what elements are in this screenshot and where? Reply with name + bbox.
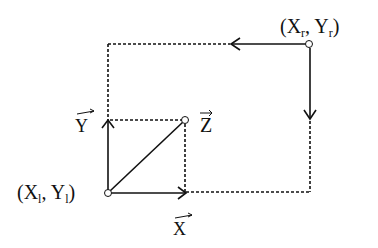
point-left-icon — [105, 190, 112, 197]
z-vector-line — [110, 122, 183, 191]
x-vector-label: X — [173, 219, 186, 239]
y-vector-arrow-over-icon — [77, 109, 94, 114]
right-point-label: (Xr, Yr) — [280, 15, 339, 40]
point-z-icon — [182, 117, 189, 124]
point-right-icon — [306, 41, 313, 48]
x-vector-arrow-over-icon — [175, 213, 192, 218]
y-vector-label: Y — [75, 116, 88, 136]
z-vector-label: Z — [200, 114, 212, 136]
vector-diagram: (Xr, Yr) (Xl, Yl) Y Z X — [0, 0, 378, 248]
left-point-label: (Xl, Yl) — [17, 181, 75, 206]
